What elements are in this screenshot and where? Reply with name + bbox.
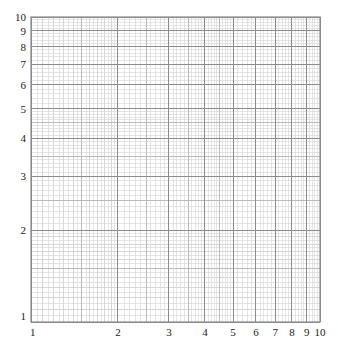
y-tick-label: 3 bbox=[21, 170, 27, 182]
y-tick-label: 9 bbox=[21, 25, 27, 37]
y-tick-label: 4 bbox=[21, 132, 27, 144]
x-tick-label: 3 bbox=[166, 326, 172, 338]
y-tick-label: 1 bbox=[21, 310, 27, 322]
x-tick-label: 1 bbox=[30, 326, 36, 338]
x-tick-label: 8 bbox=[289, 326, 295, 338]
y-tick-label: 6 bbox=[21, 79, 27, 91]
y-tick-label: 7 bbox=[21, 58, 27, 70]
log-log-graph-paper: 12345678910 12345678910 bbox=[0, 0, 338, 348]
y-axis-tick-labels: 12345678910 bbox=[15, 11, 27, 322]
major-grid-lines bbox=[31, 17, 320, 322]
x-tick-label: 2 bbox=[115, 326, 121, 338]
x-tick-label: 9 bbox=[304, 326, 310, 338]
minor-grid-lines bbox=[31, 17, 320, 322]
x-tick-label: 7 bbox=[272, 326, 278, 338]
y-tick-label: 10 bbox=[15, 11, 27, 23]
x-tick-label: 10 bbox=[315, 326, 327, 338]
y-tick-label: 8 bbox=[21, 41, 27, 53]
mid-grid-lines bbox=[31, 17, 320, 322]
y-tick-label: 5 bbox=[21, 103, 27, 115]
x-tick-label: 6 bbox=[253, 326, 259, 338]
x-tick-label: 5 bbox=[230, 326, 236, 338]
y-tick-label: 2 bbox=[21, 224, 27, 236]
x-tick-label: 4 bbox=[202, 326, 208, 338]
x-axis-tick-labels: 12345678910 bbox=[30, 326, 326, 338]
plot-border bbox=[31, 17, 320, 322]
